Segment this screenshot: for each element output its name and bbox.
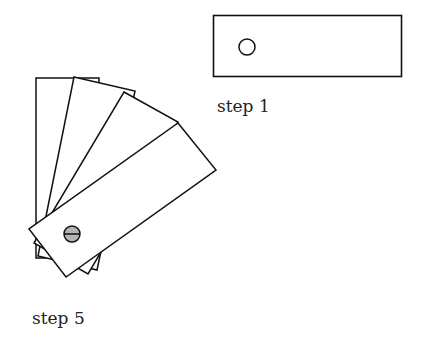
hole-icon (239, 39, 255, 55)
step1-strip (214, 16, 402, 77)
step1-label: step 1 (217, 96, 270, 116)
diagram-canvas (0, 0, 433, 337)
step5-label: step 5 (32, 308, 85, 328)
step5-fan (29, 77, 216, 277)
screw-icon (64, 226, 80, 242)
